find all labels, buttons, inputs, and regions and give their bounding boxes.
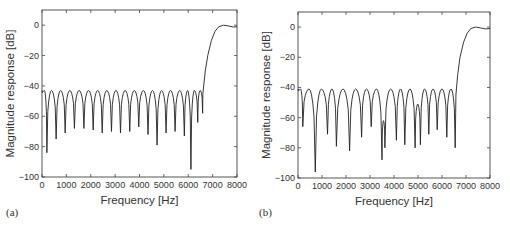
x-tick-label: 0 [39, 180, 44, 190]
x-axis-label: Frequency [Hz] [355, 195, 433, 207]
magnitude-response-curve [298, 27, 490, 172]
y-tick-label: −100 [19, 172, 39, 182]
x-tick-label: 1000 [312, 181, 332, 191]
plot-frame [42, 10, 237, 177]
y-tick-label: −80 [280, 143, 295, 153]
y-tick-label: −40 [24, 81, 39, 91]
x-tick-label: 8000 [227, 180, 247, 190]
figure: 0100020003000400050006000700080000−20−40… [0, 0, 510, 237]
plot-frame [298, 12, 490, 178]
x-tick-label: 5000 [408, 181, 428, 191]
x-tick-label: 1000 [56, 180, 76, 190]
y-tick-label: 0 [34, 20, 39, 30]
x-tick-label: 4000 [384, 181, 404, 191]
panel-label: (a) [6, 206, 19, 219]
panel-label: (b) [259, 206, 272, 219]
x-tick-label: 2000 [81, 180, 101, 190]
y-axis-label: Magnitude response [dB] [260, 31, 272, 159]
x-tick-label: 6000 [178, 180, 198, 190]
x-tick-label: 6000 [432, 181, 452, 191]
chart-panel-a: 0100020003000400050006000700080000−20−40… [4, 10, 247, 219]
y-tick-label: −60 [280, 113, 295, 123]
x-axis-label: Frequency [Hz] [101, 194, 179, 206]
x-tick-label: 7000 [456, 181, 476, 191]
y-tick-label: −20 [280, 52, 295, 62]
x-tick-label: 7000 [203, 180, 223, 190]
magnitude-response-curve [42, 25, 237, 169]
x-tick-label: 2000 [336, 181, 356, 191]
y-tick-label: −20 [24, 51, 39, 61]
x-tick-label: 3000 [360, 181, 380, 191]
y-tick-label: −80 [24, 142, 39, 152]
y-tick-label: −60 [24, 111, 39, 121]
x-tick-label: 0 [295, 181, 300, 191]
x-tick-label: 8000 [480, 181, 500, 191]
x-tick-label: 5000 [154, 180, 174, 190]
y-tick-label: 0 [290, 22, 295, 32]
x-tick-label: 4000 [129, 180, 149, 190]
y-tick-label: −100 [275, 173, 295, 183]
x-tick-label: 3000 [105, 180, 125, 190]
y-axis-label: Magnitude response [dB] [4, 30, 16, 158]
y-tick-label: −40 [280, 82, 295, 92]
chart-panel-b: 0100020003000400050006000700080000−20−40… [259, 12, 500, 219]
